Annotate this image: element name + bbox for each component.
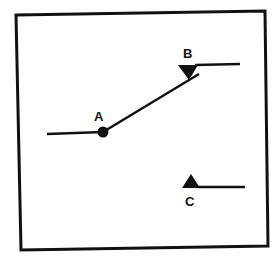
terminal-c-triangle-icon bbox=[182, 174, 200, 188]
lead-b bbox=[195, 64, 240, 65]
terminal-c-label: C bbox=[185, 194, 195, 209]
diagram-frame bbox=[16, 11, 268, 250]
terminal-a-label: A bbox=[94, 109, 104, 124]
lead-a bbox=[47, 132, 103, 134]
switch-arm bbox=[103, 74, 199, 132]
switch-diagram: A B C bbox=[0, 0, 276, 263]
terminal-b-label: B bbox=[183, 46, 192, 61]
